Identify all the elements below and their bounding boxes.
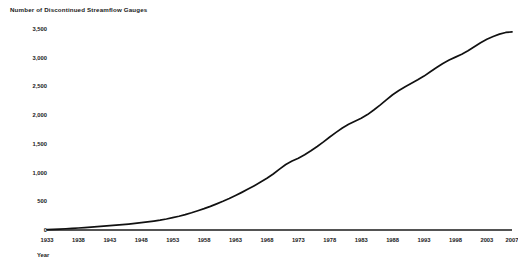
x-tick-label-1943: 1943: [103, 237, 116, 243]
x-tick-label-1993: 1993: [418, 237, 431, 243]
x-axis-title: Year: [37, 252, 49, 258]
x-tick-label-1933: 1933: [41, 237, 54, 243]
x-tick-label-1948: 1948: [135, 237, 148, 243]
x-tick-label-1938: 1938: [72, 237, 85, 243]
data-series-line: [47, 32, 512, 230]
x-tick-label-1988: 1988: [386, 237, 399, 243]
x-tick-label-1978: 1978: [323, 237, 336, 243]
x-tick-label-2003: 2003: [480, 237, 493, 243]
x-tick-label-1953: 1953: [166, 237, 179, 243]
x-tick-label-1968: 1968: [260, 237, 273, 243]
x-tick-label-1998: 1998: [449, 237, 462, 243]
x-tick-label-1983: 1983: [355, 237, 368, 243]
x-tick-label-1958: 1958: [198, 237, 211, 243]
x-tick-label-1973: 1973: [292, 237, 305, 243]
footer-caption-clipped: [0, 266, 517, 273]
x-tick-label-2007: 2007: [506, 237, 518, 243]
x-tick-label-1963: 1963: [229, 237, 242, 243]
